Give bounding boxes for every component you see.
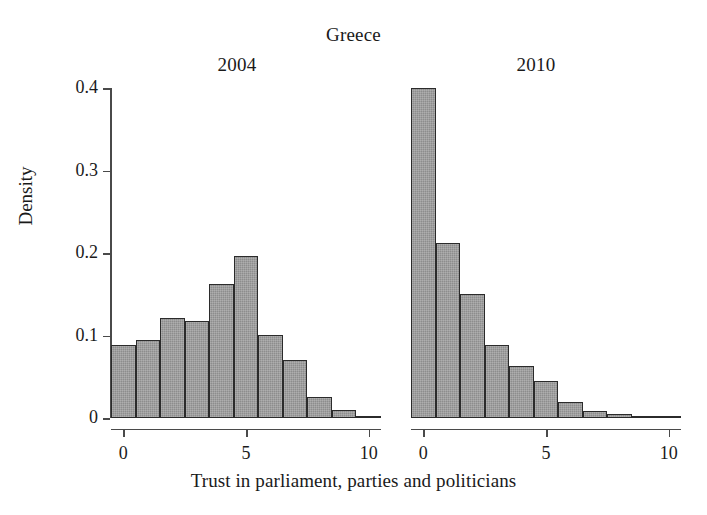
y-tick-label: 0.4 [44,77,98,98]
x-tick-label: 10 [649,443,689,464]
histogram-bar [307,397,332,418]
histogram-bar [332,410,357,418]
x-tick-label: 10 [349,443,389,464]
x-tick-mark [246,430,248,437]
x-tick-mark [546,430,548,437]
y-tick-label: 0.1 [44,325,98,346]
y-tick-label: 0 [44,407,98,428]
figure-title: Greece [0,24,707,46]
histogram-figure: Greece 2004 2010 Density 00.10.20.30.4 0… [0,0,707,515]
x-axis-label: Trust in parliament, parties and politic… [0,470,707,492]
panel-title-2004: 2004 [172,54,302,76]
histogram-bar [136,340,161,418]
y-tick-label: 0.2 [44,242,98,263]
histogram-bar [485,345,510,418]
y-axis-label: Density [15,126,37,266]
histogram-bar [436,243,461,418]
histogram-bar [258,335,283,418]
bar-group-2004 [111,88,381,418]
histogram-bar [509,366,534,418]
y-tick-mark [103,336,110,338]
histogram-bar [356,416,381,418]
histogram-bar [234,256,259,418]
histogram-bar [209,284,234,418]
histogram-bar [632,416,657,418]
histogram-bar [583,411,608,418]
histogram-bar [656,416,681,418]
x-tick-label: 5 [226,443,266,464]
y-tick-mark [103,418,110,420]
panel-title-2010: 2010 [471,54,601,76]
histogram-bar [111,345,136,418]
panel-2004: 0510 [111,88,381,418]
y-tick-label: 0.3 [44,160,98,181]
y-tick-mark [103,88,110,90]
x-tick-mark [123,430,125,437]
x-tick-mark [669,430,671,437]
x-tick-label: 0 [103,443,143,464]
histogram-bar [185,321,210,418]
histogram-bar [460,294,485,418]
histogram-bar [411,88,436,418]
x-tick-mark [423,430,425,437]
x-tick-mark [369,430,371,437]
histogram-bar [534,381,559,418]
x-tick-label: 5 [526,443,566,464]
y-tick-mark [103,171,110,173]
histogram-bar [160,318,185,418]
histogram-bar [607,414,632,418]
y-tick-mark [103,253,110,255]
histogram-bar [283,360,308,418]
panel-2010: 0510 [411,88,681,418]
histogram-bar [558,402,583,418]
bar-group-2010 [411,88,681,418]
x-tick-label: 0 [403,443,443,464]
